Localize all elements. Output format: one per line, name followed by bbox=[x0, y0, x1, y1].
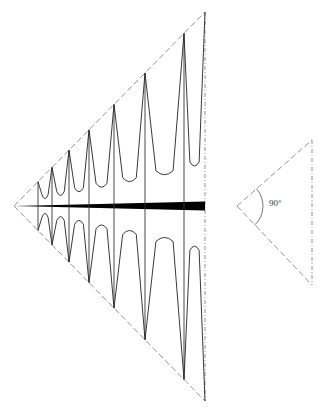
angle-triangle bbox=[237, 140, 312, 285]
boom-wedge bbox=[14, 202, 205, 211]
angle-label: 90° bbox=[269, 198, 282, 208]
